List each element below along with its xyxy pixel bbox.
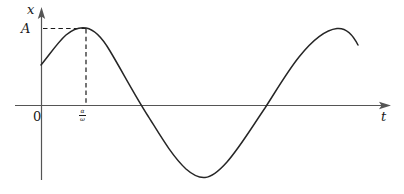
phase-numerator: α xyxy=(79,108,86,114)
amplitude-label: A xyxy=(21,22,30,35)
t-axis xyxy=(15,102,391,109)
phase-time-label: α ω xyxy=(79,108,86,122)
t-axis-label: t xyxy=(381,110,386,123)
origin-label: 0 xyxy=(33,110,41,123)
oscillation-figure: x A 0 α ω t xyxy=(0,0,404,194)
phase-denominator: ω xyxy=(79,116,86,122)
plot-canvas xyxy=(0,0,404,194)
x-axis xyxy=(38,7,45,180)
x-axis-label: x xyxy=(27,3,34,16)
oscillation-curve xyxy=(41,28,358,178)
